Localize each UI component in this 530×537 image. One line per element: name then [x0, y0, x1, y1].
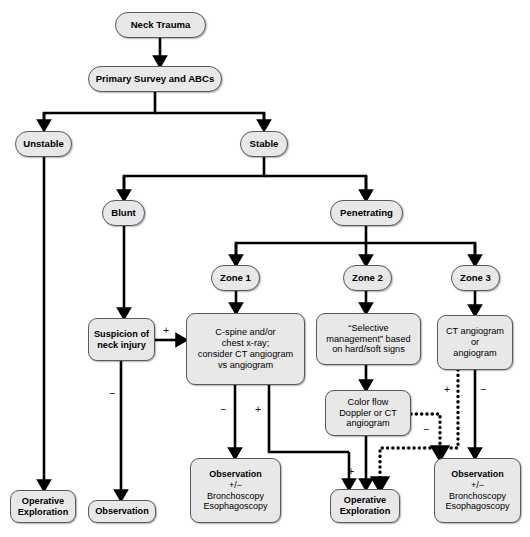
node-selective-management[interactable]: “Selectivemanagement” basedon hard/soft …	[316, 313, 421, 365]
node-suspicion-neck-injury[interactable]: Suspicion ofneck injury	[88, 318, 155, 361]
node-label-color-flow-doppler: Color flowDoppler or CTangiogram	[326, 397, 410, 429]
node-label-cspine-chest-xray: C-spine and/orchest x-ray;consider CT an…	[187, 327, 304, 370]
sign-suspicion-negative: −	[109, 388, 115, 399]
neck-trauma-flowchart: Neck TraumaPrimary Survey and ABCsUnstab…	[0, 0, 530, 537]
node-primary-survey[interactable]: Primary Survey and ABCs	[88, 66, 222, 92]
node-label-zone-1: Zone 1	[212, 272, 259, 283]
node-label-penetrating: Penetrating	[331, 207, 402, 218]
node-penetrating[interactable]: Penetrating	[330, 200, 403, 226]
node-stable[interactable]: Stable	[240, 131, 288, 157]
edge-stable-to-penetrating	[264, 176, 366, 194]
node-ct-angiogram-or[interactable]: CT angiogramorangiogram	[437, 315, 513, 370]
sign-doppler-negative: −	[423, 424, 429, 435]
node-label-operative-exploration-left: OperativeExploration	[11, 496, 75, 518]
node-label-ct-angiogram-or: CT angiogramorangiogram	[438, 326, 512, 358]
node-label-zone-3: Zone 3	[452, 272, 499, 283]
sign-doppler-positive: +	[348, 466, 354, 477]
node-label-zone-2: Zone 2	[344, 272, 391, 283]
edge-penetrating-split	[236, 226, 366, 259]
node-label-suspicion-neck-injury: Suspicion ofneck injury	[89, 329, 154, 351]
sign-zone3-negative: −	[480, 384, 486, 395]
sign-cspine-negative: −	[220, 404, 226, 415]
edge-primary-survey-to-stable	[155, 113, 264, 124]
node-label-blunt: Blunt	[103, 207, 144, 218]
node-zone-3[interactable]: Zone 3	[451, 265, 500, 291]
node-label-observation-zone1: Observation+/−BronchoscopyEsophagoscopy	[191, 469, 280, 511]
node-operative-exploration-left[interactable]: OperativeExploration	[10, 490, 76, 523]
node-zone-2[interactable]: Zone 2	[343, 265, 392, 291]
sign-zone3-positive: +	[444, 384, 450, 395]
node-label-unstable: Unstable	[16, 138, 71, 149]
node-color-flow-doppler[interactable]: Color flowDoppler or CTangiogram	[325, 390, 411, 436]
node-neck-trauma[interactable]: Neck Trauma	[115, 12, 206, 38]
sign-suspicion-positive: +	[163, 325, 169, 336]
edge-primary-survey-split	[44, 92, 155, 124]
node-unstable[interactable]: Unstable	[15, 131, 72, 157]
node-label-primary-survey: Primary Survey and ABCs	[89, 73, 221, 84]
node-observation-zone3[interactable]: Observation+/−BronchoscopyEsophagoscopy	[434, 458, 521, 523]
node-label-selective-management: “Selectivemanagement” basedon hard/soft …	[317, 323, 420, 355]
sign-cspine-positive: +	[255, 404, 261, 415]
edge-stable-split-left	[124, 157, 264, 194]
node-observation-blunt[interactable]: Observation	[88, 500, 156, 523]
node-operative-exploration-zone2[interactable]: OperativeExploration	[330, 489, 400, 523]
node-blunt[interactable]: Blunt	[102, 200, 145, 226]
node-observation-zone1[interactable]: Observation+/−BronchoscopyEsophagoscopy	[190, 458, 281, 523]
node-label-observation-blunt: Observation	[89, 506, 155, 517]
node-label-observation-zone3: Observation+/−BronchoscopyEsophagoscopy	[435, 469, 520, 511]
node-label-operative-exploration-zone2: OperativeExploration	[331, 495, 399, 517]
node-label-stable: Stable	[241, 138, 287, 149]
node-cspine-chest-xray[interactable]: C-spine and/orchest x-ray;consider CT an…	[186, 313, 305, 385]
node-label-neck-trauma: Neck Trauma	[116, 19, 205, 30]
edge-penetrating-to-zone3	[366, 243, 475, 259]
flowchart-edges-layer	[0, 0, 530, 537]
node-zone-1[interactable]: Zone 1	[211, 265, 260, 291]
